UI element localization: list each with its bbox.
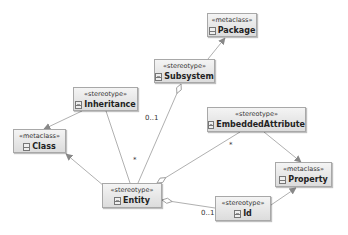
edge-entity-id[interactable] [162, 200, 215, 208]
multiplicity-embeddedattribute: * [229, 141, 233, 149]
node-subsystem[interactable]: «stereotype» Subsystem [154, 59, 215, 83]
stereotype-icon [208, 121, 214, 129]
stereotype-label: «stereotype» [208, 110, 305, 119]
node-embeddedattribute[interactable]: «stereotype» EmbeddedAttribute [207, 107, 306, 132]
edge-inheritance-class[interactable] [44, 111, 82, 129]
diagram-canvas: «metaclass» Package «stereotype» Subsyst… [0, 0, 348, 235]
edge-id-property[interactable] [271, 188, 296, 205]
stereotype-label: «metaclass» [14, 132, 65, 141]
stereotype-icon [114, 197, 121, 205]
stereotype-label: «stereotype» [74, 90, 137, 99]
multiplicity-subsystem-entity: * [133, 156, 137, 164]
stereotype-label: «stereotype» [155, 62, 214, 71]
multiplicity-id: 0..1 [201, 209, 214, 217]
node-class[interactable]: «metaclass» Class [13, 129, 66, 153]
node-name: Inheritance [84, 99, 136, 110]
metaclass-icon [279, 176, 286, 184]
node-name: Property [288, 174, 327, 185]
node-id[interactable]: «stereotype» Id [215, 196, 271, 221]
metaclass-icon [23, 143, 30, 151]
node-name: Package [218, 25, 256, 36]
node-name: Id [243, 208, 252, 219]
stereotype-icon [155, 73, 162, 81]
edge-subsystem-package[interactable] [208, 38, 225, 59]
node-property[interactable]: «metaclass» Property [275, 162, 332, 187]
stereotype-label: «stereotype» [103, 186, 161, 195]
edge-subsystem-entity[interactable] [138, 84, 181, 183]
node-inheritance[interactable]: «stereotype» Inheritance [73, 87, 138, 111]
edge-entity-class[interactable] [66, 154, 104, 186]
edge-entity-embeddedattribute[interactable] [157, 132, 240, 183]
node-package[interactable]: «metaclass» Package [207, 13, 257, 37]
node-name: Subsystem [164, 71, 214, 82]
node-entity[interactable]: «stereotype» Entity [102, 183, 162, 208]
node-name: Class [32, 141, 56, 152]
edge-embeddedattribute-property[interactable] [264, 132, 301, 162]
node-name: Entity [123, 195, 150, 206]
stereotype-icon [234, 210, 241, 218]
stereotype-icon [75, 101, 82, 109]
node-name: EmbeddedAttribute [216, 119, 305, 130]
stereotype-label: «metaclass» [276, 165, 331, 174]
stereotype-label: «metaclass» [208, 16, 256, 25]
metaclass-icon [209, 27, 216, 35]
edge-entity-inheritance[interactable] [106, 111, 130, 183]
stereotype-label: «stereotype» [216, 199, 270, 208]
multiplicity-inheritance: 0..1 [145, 114, 158, 122]
